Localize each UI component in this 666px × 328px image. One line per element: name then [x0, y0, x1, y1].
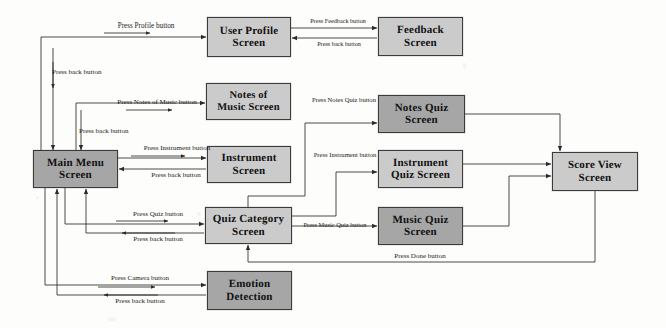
node-feedback-screen-label: FeedbackScreen — [391, 24, 450, 49]
node-notes-of-music-screen-label: Notes ofMusic Screen — [211, 90, 286, 114]
edge-notes-quiz-to-score — [465, 114, 560, 151]
edge-label-quiz-back-button: Press back button — [110, 236, 206, 243]
node-instrument-quiz-screen[interactable]: InstrumentQuiz Screen — [378, 150, 463, 188]
edge-label-notes-music-back-button: Press back button — [79, 128, 171, 135]
node-user-profile-screen-label: User ProfileScreen — [214, 25, 285, 50]
edge-label-press-quiz-button: Press Quiz button — [110, 211, 206, 218]
edge-label-press-done-button: Press Done button — [370, 253, 470, 260]
edge-music-quiz-to-score — [463, 176, 551, 226]
edge-label-press-feedback-button: Press Feedback button — [296, 18, 380, 25]
edge-label-press-instrument-quiz-button: Press Instrument button — [312, 152, 378, 159]
edge-label-profile-back-button: Press back button — [52, 69, 144, 76]
edge-label-press-profile-button: Press Profile button — [86, 23, 206, 31]
node-quiz-category-screen[interactable]: Quiz CategoryScreen — [205, 207, 292, 244]
node-quiz-category-screen-label: Quiz CategoryScreen — [207, 213, 290, 238]
node-feedback-screen[interactable]: FeedbackScreen — [378, 17, 463, 56]
node-score-view-screen[interactable]: Score ViewScreen — [552, 152, 638, 191]
node-instrument-quiz-screen-label: InstrumentQuiz Screen — [385, 157, 456, 182]
edge-label-press-notes-of-music-button: Press Notes of Music button — [92, 99, 222, 106]
node-emotion-detection-label: EmotionDetection — [220, 278, 278, 303]
edge-label-camera-back-button: Press back button — [84, 298, 196, 305]
node-main-menu-screen[interactable]: Main MenuScreen — [33, 150, 118, 188]
edge-label-press-notes-quiz-button: Press Notes Quiz button — [310, 97, 378, 104]
flow-diagram-canvas: User ProfileScreen FeedbackScreen Notes … — [0, 0, 666, 328]
node-emotion-detection[interactable]: EmotionDetection — [207, 271, 292, 310]
edge-label-press-camera-button: Press Camera button — [84, 275, 196, 282]
node-main-menu-screen-label: Main MenuScreen — [41, 157, 110, 182]
node-user-profile-screen[interactable]: User ProfileScreen — [207, 17, 291, 57]
edge-label-press-music-quiz-button: Press Music Quiz button — [292, 222, 378, 229]
node-score-view-screen-label: Score ViewScreen — [562, 159, 628, 184]
node-music-quiz-screen[interactable]: Music QuizScreen — [378, 207, 463, 245]
edge-label-press-instrument-button: Press Instrument button — [122, 145, 232, 152]
node-notes-quiz-screen-label: Notes QuizScreen — [389, 102, 455, 127]
edge-label-instrument-back-button: Press back button — [124, 172, 228, 179]
node-music-quiz-screen-label: Music QuizScreen — [386, 214, 454, 239]
edge-label-feedback-back-button: Press back button — [300, 41, 378, 48]
node-notes-quiz-screen[interactable]: Notes QuizScreen — [378, 95, 465, 133]
